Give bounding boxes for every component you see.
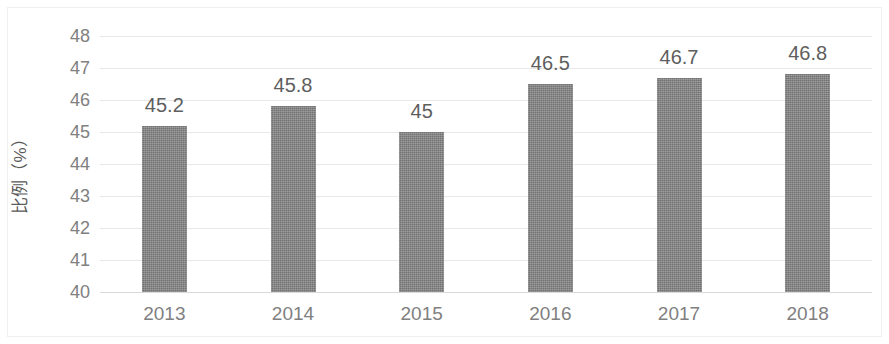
y-axis-tick-label: 42 — [30, 218, 90, 239]
y-axis-tick-label: 47 — [30, 58, 90, 79]
bar[interactable] — [399, 132, 444, 292]
bar-value-label: 46.5 — [505, 52, 595, 75]
y-axis-tick-label: 46 — [30, 90, 90, 111]
x-axis-category-label: 2017 — [624, 303, 734, 325]
x-axis-category-label: 2013 — [109, 303, 219, 325]
gridline — [100, 260, 872, 261]
gridline — [100, 164, 872, 165]
bar[interactable] — [271, 106, 316, 292]
bar[interactable] — [142, 126, 187, 292]
gridline — [100, 68, 872, 69]
bar-chart: 比例（%） 484746454443424140 45.2201345.8201… — [0, 0, 889, 344]
plot-area — [100, 36, 872, 292]
gridline — [100, 36, 872, 37]
gridline — [100, 228, 872, 229]
bar-value-label: 45.2 — [119, 94, 209, 117]
gridline — [100, 100, 872, 101]
x-axis-category-label: 2014 — [238, 303, 348, 325]
y-axis-tick-label: 40 — [30, 282, 90, 303]
bar-value-label: 46.7 — [634, 46, 724, 69]
gridline — [100, 292, 872, 293]
bar[interactable] — [528, 84, 573, 292]
x-axis-category-label: 2016 — [495, 303, 605, 325]
bar[interactable] — [785, 74, 830, 292]
y-axis-tick-labels: 484746454443424140 — [28, 36, 90, 292]
gridline — [100, 132, 872, 133]
x-axis-category-label: 2015 — [367, 303, 477, 325]
bar-value-label: 45.8 — [248, 74, 338, 97]
y-axis-tick-label: 44 — [30, 154, 90, 175]
bar-value-label: 46.8 — [763, 42, 853, 65]
y-axis-tick-label: 45 — [30, 122, 90, 143]
bar-value-label: 45 — [377, 100, 467, 123]
y-axis-tick-label: 41 — [30, 250, 90, 271]
y-axis-tick-label: 43 — [30, 186, 90, 207]
x-axis-category-label: 2018 — [753, 303, 863, 325]
gridline — [100, 196, 872, 197]
y-axis-tick-label: 48 — [30, 26, 90, 47]
bar[interactable] — [657, 78, 702, 292]
